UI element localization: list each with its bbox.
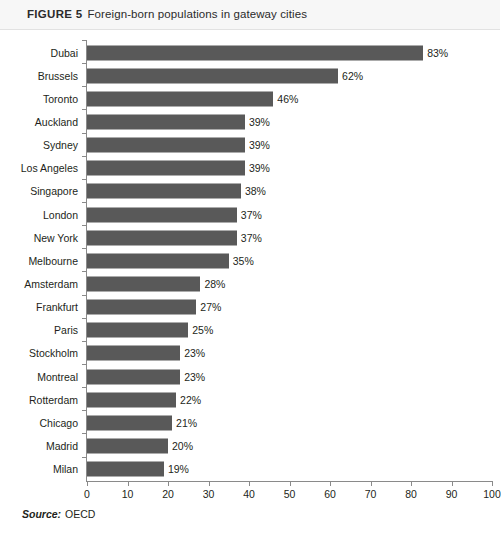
bar (87, 184, 241, 199)
bar-row: Los Angeles39% (87, 157, 492, 180)
bar (87, 161, 245, 176)
bar (87, 323, 188, 338)
bar (87, 68, 338, 83)
x-axis-tick-label: 90 (446, 489, 458, 500)
bar-value-label: 23% (184, 371, 205, 382)
x-axis-tick-label: 0 (84, 489, 90, 500)
figure-number: FIGURE 5 (27, 8, 82, 20)
bar-row: Madrid20% (87, 434, 492, 457)
x-axis-tick (249, 481, 250, 486)
bar-row: Paris25% (87, 319, 492, 342)
bar (87, 369, 180, 384)
category-label: Stockholm (29, 348, 78, 359)
bar-rows: Dubai83%Brussels62%Toronto46%Auckland39%… (87, 41, 492, 481)
category-label: Rotterdam (29, 394, 78, 405)
bar-value-label: 39% (249, 163, 270, 174)
y-axis-tick (82, 156, 87, 157)
bar-value-label: 37% (241, 232, 262, 243)
x-axis-tick-label: 80 (405, 489, 417, 500)
bar-value-label: 21% (176, 418, 197, 429)
y-axis-tick (82, 202, 87, 203)
category-label: London (43, 209, 78, 220)
category-label: Los Angeles (21, 163, 78, 174)
x-axis-tick-label: 20 (162, 489, 174, 500)
bar-row: Chicago21% (87, 411, 492, 434)
bar-row: Frankfurt27% (87, 296, 492, 319)
bar-value-label: 20% (172, 441, 193, 452)
category-label: Dubai (51, 47, 78, 58)
category-label: Madrid (46, 441, 78, 452)
category-label: Sydney (43, 140, 78, 151)
y-axis-tick (82, 86, 87, 87)
x-axis-tick-label: 10 (122, 489, 134, 500)
bar-chart: Dubai83%Brussels62%Toronto46%Auckland39%… (0, 30, 500, 500)
bar (87, 462, 164, 477)
y-axis-tick (82, 179, 87, 180)
category-label: Milan (53, 464, 78, 475)
x-axis-tick-label: 30 (203, 489, 215, 500)
y-axis-tick (82, 387, 87, 388)
y-axis-tick (82, 225, 87, 226)
bar-row: Brussels62% (87, 64, 492, 87)
bar-row: Montreal23% (87, 365, 492, 388)
category-label: Montreal (37, 371, 78, 382)
bar-value-label: 38% (245, 186, 266, 197)
bar (87, 207, 237, 222)
bar-value-label: 35% (233, 256, 254, 267)
category-label: Brussels (38, 70, 78, 81)
bar-value-label: 37% (241, 209, 262, 220)
bar-value-label: 23% (184, 348, 205, 359)
x-axis-tick (128, 481, 129, 486)
category-label: Chicago (39, 418, 78, 429)
y-axis-tick (82, 433, 87, 434)
bar-row: Dubai83% (87, 41, 492, 64)
y-axis-tick (82, 133, 87, 134)
x-axis-tick-label: 60 (324, 489, 336, 500)
bar-row: Stockholm23% (87, 342, 492, 365)
bar-row: New York37% (87, 226, 492, 249)
bar (87, 392, 176, 407)
x-axis-tick (411, 481, 412, 486)
category-label: Frankfurt (36, 302, 78, 313)
bar-value-label: 19% (168, 464, 189, 475)
bar-row: Sydney39% (87, 134, 492, 157)
x-axis-tick (87, 481, 88, 486)
bar (87, 138, 245, 153)
y-axis-tick (82, 295, 87, 296)
category-label: Auckland (35, 117, 78, 128)
x-axis-tick (492, 481, 493, 486)
x-axis-tick (371, 481, 372, 486)
bar-value-label: 46% (277, 94, 298, 105)
x-axis-tick (452, 481, 453, 486)
x-axis-tick (330, 481, 331, 486)
bar (87, 438, 168, 453)
category-label: Singapore (30, 186, 78, 197)
x-axis-tick (168, 481, 169, 486)
bar-value-label: 62% (342, 70, 363, 81)
y-axis-tick (82, 271, 87, 272)
bar-row: Auckland39% (87, 110, 492, 133)
bar-value-label: 27% (200, 302, 221, 313)
x-axis-ticks: 0102030405060708090100 (87, 481, 492, 509)
bar (87, 253, 229, 268)
bar (87, 230, 237, 245)
bar-value-label: 25% (192, 325, 213, 336)
source-value: OECD (65, 508, 95, 520)
figure-caption: Foreign-born populations in gateway citi… (87, 8, 307, 20)
y-axis-tick (82, 318, 87, 319)
bar (87, 45, 423, 60)
x-axis-tick-label: 40 (243, 489, 255, 500)
x-axis-tick (209, 481, 210, 486)
y-axis-tick (82, 40, 87, 41)
y-axis-tick (82, 341, 87, 342)
source-note: Source:OECD (22, 508, 95, 520)
bar-row: Toronto46% (87, 87, 492, 110)
bar-row: London37% (87, 203, 492, 226)
x-axis-tick-label: 100 (483, 489, 501, 500)
bar-row: Singapore38% (87, 180, 492, 203)
bar (87, 114, 245, 129)
category-label: New York (34, 232, 78, 243)
x-axis-tick (290, 481, 291, 486)
bar (87, 346, 180, 361)
